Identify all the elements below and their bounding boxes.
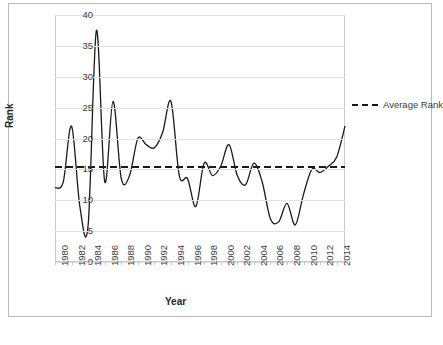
y-tick-label: 40 bbox=[67, 10, 93, 20]
x-tick-mark bbox=[55, 262, 56, 265]
y-tick-label: 5 bbox=[67, 226, 93, 236]
x-tick-label: 1992 bbox=[158, 254, 170, 266]
x-tick-label: 1994 bbox=[175, 254, 187, 266]
x-tick-label: 1998 bbox=[208, 254, 220, 266]
x-tick-label: 2012 bbox=[324, 254, 336, 266]
chart-legend: Average Rank bbox=[352, 99, 443, 110]
x-tick-mark bbox=[337, 262, 338, 265]
x-tick-label: 1988 bbox=[125, 254, 137, 266]
y-tick-label: 30 bbox=[67, 72, 93, 82]
x-tick-mark bbox=[188, 262, 189, 265]
y-tick-label: 10 bbox=[67, 195, 93, 205]
y-axis-title: Rank bbox=[4, 104, 15, 128]
legend-dashed-line-icon bbox=[352, 104, 378, 106]
y-gridline bbox=[55, 15, 345, 16]
y-gridline bbox=[55, 200, 345, 201]
x-tick-label: 2008 bbox=[291, 254, 303, 266]
x-tick-label: 1996 bbox=[192, 254, 204, 266]
y-gridline bbox=[55, 169, 345, 170]
plot-area bbox=[55, 15, 345, 262]
x-tick-mark bbox=[221, 262, 222, 265]
x-tick-mark bbox=[270, 262, 271, 265]
x-tick-mark bbox=[237, 262, 238, 265]
x-tick-mark bbox=[320, 262, 321, 265]
x-tick-label: 1984 bbox=[92, 254, 104, 266]
y-tick-label: 35 bbox=[67, 41, 93, 51]
y-tick-label: 20 bbox=[67, 134, 93, 144]
y-gridline bbox=[55, 139, 345, 140]
x-tick-label: 2002 bbox=[241, 254, 253, 266]
x-tick-mark bbox=[204, 262, 205, 265]
y-gridline bbox=[55, 231, 345, 232]
x-tick-mark bbox=[287, 262, 288, 265]
x-tick-mark bbox=[88, 262, 89, 265]
x-tick-mark bbox=[154, 262, 155, 265]
x-tick-label: 1982 bbox=[76, 254, 88, 266]
x-tick-mark bbox=[171, 262, 172, 265]
x-tick-label: 1990 bbox=[142, 254, 154, 266]
x-tick-mark bbox=[138, 262, 139, 265]
x-axis-title: Year bbox=[165, 296, 186, 307]
y-gridline bbox=[55, 77, 345, 78]
x-tick-label: 1980 bbox=[59, 254, 71, 266]
y-gridline bbox=[55, 108, 345, 109]
y-tick-label: 25 bbox=[67, 103, 93, 113]
y-gridline bbox=[55, 46, 345, 47]
x-tick-label: 1986 bbox=[109, 254, 121, 266]
x-tick-label: 2004 bbox=[258, 254, 270, 266]
x-tick-mark bbox=[105, 262, 106, 265]
x-tick-mark bbox=[254, 262, 255, 265]
x-tick-mark bbox=[72, 262, 73, 265]
x-tick-mark bbox=[121, 262, 122, 265]
y-tick-label: 15 bbox=[67, 164, 93, 174]
legend-item-label: Average Rank bbox=[383, 99, 443, 110]
x-tick-label: 2000 bbox=[225, 254, 237, 266]
data-series-line bbox=[55, 30, 345, 237]
x-tick-label: 2006 bbox=[274, 254, 286, 266]
x-tick-mark bbox=[304, 262, 305, 265]
x-tick-label: 2010 bbox=[308, 254, 320, 266]
x-tick-label: 2014 bbox=[341, 254, 353, 266]
